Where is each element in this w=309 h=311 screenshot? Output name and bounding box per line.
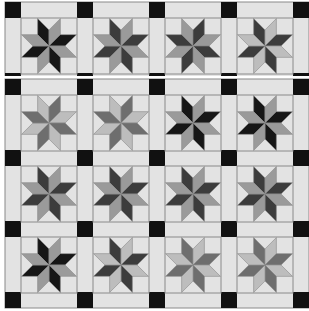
cornerstone bbox=[293, 292, 309, 308]
main-quilt-star-block bbox=[21, 237, 77, 293]
main-quilt-star-block bbox=[165, 237, 221, 293]
cornerstone bbox=[77, 79, 93, 95]
cornerstone bbox=[5, 79, 21, 95]
main-quilt-star-block bbox=[237, 166, 293, 222]
cornerstone bbox=[149, 221, 165, 237]
cornerstone bbox=[149, 79, 165, 95]
main-quilt-star-block bbox=[237, 237, 293, 293]
cornerstone bbox=[221, 221, 237, 237]
main-quilt-star-block bbox=[93, 166, 149, 222]
main-quilt-canvas bbox=[0, 0, 309, 311]
main-quilt-star-block bbox=[21, 95, 77, 151]
cornerstone bbox=[5, 150, 21, 166]
main-quilt-star-block bbox=[165, 166, 221, 222]
cornerstone bbox=[293, 79, 309, 95]
cornerstone bbox=[221, 150, 237, 166]
main-quilt bbox=[0, 0, 309, 311]
main-quilt-star-block bbox=[237, 95, 293, 151]
main-quilt-star-block bbox=[93, 95, 149, 151]
main-quilt-star-block bbox=[21, 166, 77, 222]
cornerstone bbox=[77, 292, 93, 308]
cornerstone bbox=[293, 221, 309, 237]
cornerstone bbox=[5, 221, 21, 237]
cornerstone bbox=[149, 292, 165, 308]
main-quilt-star-block bbox=[93, 237, 149, 293]
cornerstone bbox=[221, 292, 237, 308]
cornerstone bbox=[77, 221, 93, 237]
cornerstone bbox=[221, 79, 237, 95]
cornerstone bbox=[149, 150, 165, 166]
cornerstone bbox=[5, 292, 21, 308]
cornerstone bbox=[77, 150, 93, 166]
main-quilt-star-block bbox=[165, 95, 221, 151]
cornerstone bbox=[293, 150, 309, 166]
